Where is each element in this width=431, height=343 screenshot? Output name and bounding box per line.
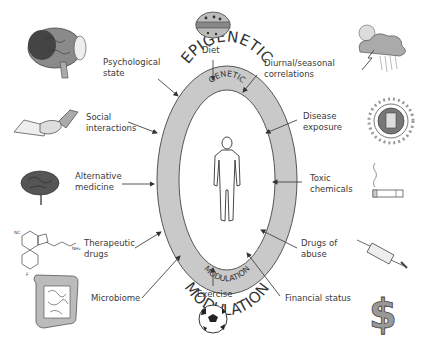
food-icon: [196, 12, 230, 38]
herb-icon: [21, 171, 59, 205]
intestine-icon: [34, 275, 78, 328]
label-alternative-medicine: Alternative medicine: [75, 171, 122, 193]
label-therapeutic-drugs: Therapeutic drugs: [84, 238, 135, 260]
cigarette-icon: [373, 163, 403, 197]
label-financial-status: Financial status: [285, 293, 351, 304]
label-psychological-state: Psychological state: [103, 57, 160, 79]
svg-text:$: $: [369, 291, 397, 337]
label-social-interactions: Social interactions: [86, 112, 136, 134]
label-diurnal-seasonal: Diurnal/seasonal correlations: [264, 58, 335, 80]
dollar-icon: $: [369, 291, 397, 337]
soccer-ball-icon: [199, 305, 227, 333]
handshake-icon: [14, 110, 78, 136]
svg-text:NC: NC: [14, 230, 21, 235]
brain-icon: [28, 28, 86, 78]
label-microbiome: Microbiome: [91, 293, 140, 304]
epigenetic-label: EPIGENETIC: [177, 27, 276, 67]
label-exercise: Exercise: [197, 289, 232, 300]
virus-icon: [369, 99, 413, 143]
weather-icon: [359, 25, 406, 72]
svg-text:F: F: [26, 272, 29, 277]
label-toxic-chemicals: Toxic chemicals: [310, 173, 353, 195]
label-diet: Diet: [202, 45, 219, 56]
label-drugs-of-abuse: Drugs of abuse: [301, 238, 337, 260]
svg-text:NH₂: NH₂: [72, 246, 81, 251]
label-disease-exposure: Disease exposure: [303, 111, 342, 133]
syringe-icon: [357, 240, 407, 268]
molecule-icon: NC NH₂ F: [14, 230, 81, 277]
